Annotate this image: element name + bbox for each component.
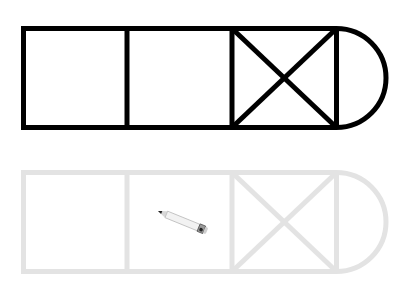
pencil-body (165, 211, 200, 231)
drawing-canvas[interactable] (0, 0, 414, 288)
reference-shape (24, 29, 387, 128)
trace-shape[interactable] (24, 173, 387, 272)
outline-path (24, 173, 387, 272)
pencil-cursor-icon (156, 207, 208, 234)
outline-path (24, 29, 387, 128)
